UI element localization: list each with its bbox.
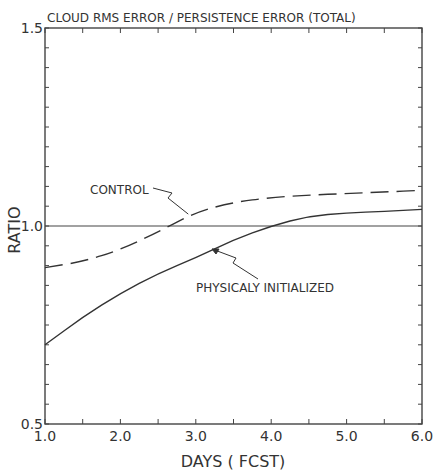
chart-title: CLOUD RMS ERROR / PERSISTENCE ERROR (TOT… <box>47 11 356 25</box>
annotation-physical-label: PHYSICALY INITIALIZED <box>196 281 334 295</box>
annotation-physical-arrowhead <box>212 249 219 254</box>
x-tick-label: 2.0 <box>109 428 131 444</box>
y-tick-label: 1.0 <box>21 218 43 234</box>
x-tick-label: 3.0 <box>185 428 207 444</box>
annotation-control-label: CONTROL <box>90 183 149 197</box>
marks <box>45 190 422 344</box>
axes: 1.02.03.04.05.06.00.51.01.5 <box>21 20 433 444</box>
chart: CLOUD RMS ERROR / PERSISTENCE ERROR (TOT… <box>0 0 441 474</box>
x-tick-label: 6.0 <box>411 428 433 444</box>
x-tick-label: 4.0 <box>260 428 282 444</box>
series-line-control <box>45 190 422 267</box>
x-tick-label: 5.0 <box>335 428 357 444</box>
y-tick-label: 1.5 <box>21 20 43 36</box>
x-axis-label: DAYS ( FCST) <box>181 452 286 471</box>
annotations: CONTROLPHYSICALY INITIALIZED <box>90 183 334 295</box>
y-tick-label: 0.5 <box>21 416 43 432</box>
annotation-physical-arrow <box>212 249 258 279</box>
series-line-physicaly-initialized <box>45 209 422 344</box>
annotation-control-arrow <box>153 188 188 214</box>
